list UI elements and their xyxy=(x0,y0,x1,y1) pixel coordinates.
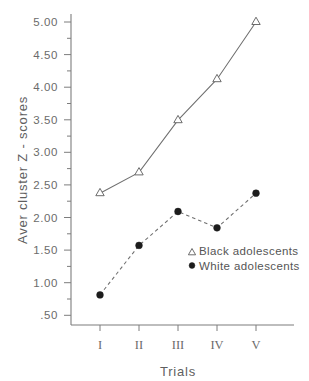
x-tick-label: I xyxy=(98,338,102,352)
legend-label-white-adolescents: White adolescents xyxy=(199,260,300,272)
data-point-marker xyxy=(175,208,182,215)
x-tick-label: IV xyxy=(210,338,223,352)
data-point-marker xyxy=(214,224,221,231)
data-point-marker xyxy=(136,242,143,249)
y-tick-label: 3.00 xyxy=(33,146,58,158)
chart-figure: 5.00 4.50 4.00 3.50 3.00 2.50 2.00 1.50 … xyxy=(0,0,309,381)
y-tick-label: 2.50 xyxy=(33,179,58,191)
line-chart-svg: 5.00 4.50 4.00 3.50 3.00 2.50 2.00 1.50 … xyxy=(0,0,309,381)
y-tick-label: 1.50 xyxy=(33,244,58,256)
legend-circle-icon xyxy=(189,263,195,269)
y-tick-label: 2.00 xyxy=(33,212,58,224)
y-tick-label: 4.00 xyxy=(33,81,58,93)
legend-label-black-adolescents: Black adolescents xyxy=(199,245,299,257)
x-tick-label: V xyxy=(251,338,260,352)
y-tick-label: 5.00 xyxy=(33,16,58,28)
y-tick-label: 3.50 xyxy=(33,114,58,126)
data-point-marker xyxy=(253,190,260,197)
y-axis-title: Aver cluster Z - scores xyxy=(15,96,30,244)
y-tick-label: 4.50 xyxy=(33,49,58,61)
x-tick-label: III xyxy=(172,338,185,352)
y-tick-label: 1.00 xyxy=(33,277,58,289)
x-tick-label: II xyxy=(135,338,143,352)
y-tick-label: .50 xyxy=(40,309,58,321)
x-axis-title: Trials xyxy=(160,364,196,379)
data-point-marker xyxy=(97,292,104,299)
